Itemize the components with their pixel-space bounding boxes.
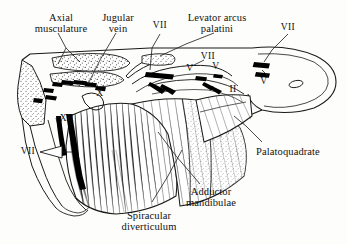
label-v-right: V (258, 76, 270, 87)
label-xii: XII (56, 113, 78, 124)
label-vii-lower-left: VII (16, 146, 40, 157)
label-vii-top-left: VII (148, 20, 172, 31)
anatomical-figure: Axial musculature Jugular vein VII Levat… (0, 0, 347, 244)
label-palatoquadrate: Palatoquadrate (240, 146, 336, 157)
label-jugular-vein: Jugular vein (90, 12, 146, 34)
label-x: X (94, 88, 106, 99)
levator-arcus-palatini-shape (142, 54, 175, 66)
label-v-left: V (184, 63, 196, 74)
label-vii-top-right: VII (276, 22, 300, 33)
label-axial-musculature: Axial musculature (22, 12, 100, 34)
label-ii: II (226, 84, 240, 95)
label-adductor-mandibulae: Adductor mandibulae (172, 186, 250, 208)
label-levator-arcus-palatini: Levator arcus palatini (178, 12, 256, 34)
label-spiracular-diverticulum: Spiracular diverticulum (110, 210, 188, 232)
label-v-mid: V (210, 61, 222, 72)
